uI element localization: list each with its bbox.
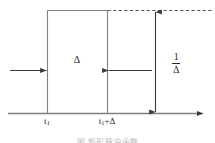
- tick-label-end: t1+Δ: [99, 117, 116, 127]
- tick-label-start-subscript: 1: [47, 119, 50, 126]
- pulse-height-label: 1 Δ: [172, 52, 180, 76]
- figure-caption: 图 矩形脉冲函数: [0, 136, 215, 143]
- tick-label-start: t1: [44, 117, 50, 127]
- tick-label-end-offset: +Δ: [104, 116, 115, 126]
- fraction-one-over-delta: 1 Δ: [172, 52, 180, 76]
- pulse-width-label: Δ: [74, 55, 80, 65]
- fraction-denominator: Δ: [172, 65, 180, 76]
- fraction-numerator: 1: [172, 52, 180, 63]
- rectangular-pulse-figure: Δ t1 t1+Δ 1 Δ 图 矩形脉冲函数: [0, 0, 215, 143]
